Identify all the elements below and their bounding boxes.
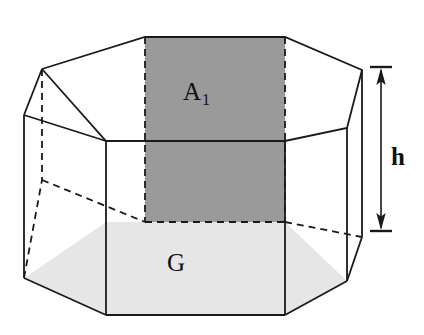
label-A1-base: A <box>183 78 201 105</box>
label-lateral-face-A1: A1 <box>183 78 210 109</box>
label-height-h: h <box>391 143 405 171</box>
prism-figure: A1 G h <box>0 0 424 335</box>
prism-drawing <box>0 0 424 335</box>
lateral-face-left-near <box>106 141 145 222</box>
label-A1-subscript: 1 <box>201 91 210 108</box>
lateral-face-A1 <box>145 37 285 222</box>
label-base-face-G: G <box>167 249 185 277</box>
